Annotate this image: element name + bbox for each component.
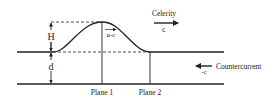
height-label: H	[47, 31, 54, 42]
relative-velocity-label: u-c	[107, 31, 116, 39]
countercurrent-symbol: -c	[201, 68, 206, 75]
countercurrent-label: Countercurrent	[216, 62, 262, 71]
plane1-label: Plane 1	[91, 88, 114, 97]
depth-label: d	[49, 61, 54, 72]
plane2-label: Plane 2	[139, 88, 162, 97]
celerity-symbol: c	[162, 25, 166, 34]
wave-diagram: H d Plane 1 Plane 2 u-c Celerity c -c Co…	[0, 0, 278, 102]
celerity-label: Celerity	[152, 9, 176, 18]
